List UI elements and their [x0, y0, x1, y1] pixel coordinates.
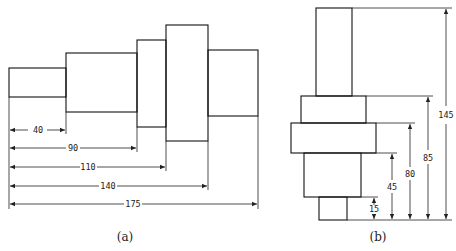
- figure-a-extension-lines: [9, 97, 258, 209]
- figure-b-dimensions: 15 45 80 85 145: [369, 9, 454, 219]
- dim-label-140: 140: [100, 181, 115, 191]
- figure-b-shaft: [291, 8, 376, 220]
- shaft-segment-1: [9, 68, 66, 97]
- dim-label-90: 90: [68, 143, 78, 153]
- shaft-segment-4: [166, 25, 208, 141]
- shaft-segment-2: [301, 96, 366, 123]
- shaft-segment-bottom: [319, 197, 347, 220]
- dim-label-85: 85: [423, 153, 433, 163]
- dim-label-40: 40: [33, 125, 43, 135]
- shaft-segment-5: [208, 50, 258, 116]
- figure-b-extension-lines: [347, 8, 452, 220]
- shaft-segment-2: [66, 53, 137, 112]
- dim-label-80: 80: [405, 169, 415, 179]
- figure-a-shaft: [9, 25, 258, 141]
- figure-a-dimensions: 40 90 110 140 175: [10, 125, 257, 209]
- shaft-segment-top: [316, 8, 352, 96]
- shaft-segment-3: [137, 40, 166, 127]
- dim-label-110: 110: [80, 162, 95, 172]
- caption-b: (b): [369, 230, 386, 244]
- shaft-segment-4: [304, 153, 361, 197]
- dim-label-15: 15: [369, 204, 379, 214]
- caption-a: (a): [117, 230, 134, 244]
- drawing-canvas: 40 90 110 140 175 (a) 1: [0, 0, 456, 251]
- dim-label-145: 145: [438, 110, 453, 120]
- shaft-segment-collar: [291, 123, 376, 153]
- dim-label-175: 175: [125, 199, 140, 209]
- dim-label-45: 45: [387, 182, 397, 192]
